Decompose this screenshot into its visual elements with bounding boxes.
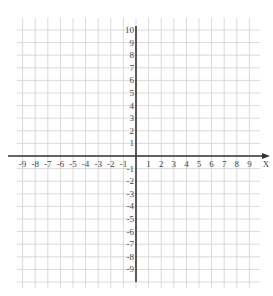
x-tick-label: 4 xyxy=(184,159,189,169)
x-tick-label: -5 xyxy=(69,159,77,169)
y-tick-label: -9 xyxy=(127,264,135,274)
coordinate-plane: -9-8-7-6-5-4-3-2-1123456789X10987654321-… xyxy=(0,0,273,296)
y-tick-label: 10 xyxy=(125,25,135,35)
y-tick-label: 7 xyxy=(130,63,135,73)
x-axis-label: X xyxy=(263,159,270,169)
x-tick-label: 3 xyxy=(172,159,177,169)
x-tick-label: -9 xyxy=(19,159,27,169)
y-tick-label: 2 xyxy=(130,126,135,136)
x-tick-label: 7 xyxy=(222,159,227,169)
axis-labels: -9-8-7-6-5-4-3-2-1123456789X10987654321-… xyxy=(19,25,270,274)
axes xyxy=(8,26,270,282)
x-tick-label: 8 xyxy=(235,159,240,169)
x-tick-label: -6 xyxy=(57,159,65,169)
y-tick-label: -7 xyxy=(127,239,135,249)
x-tick-label: -8 xyxy=(31,159,39,169)
x-tick-label: 2 xyxy=(159,159,164,169)
x-tick-label: -4 xyxy=(82,159,90,169)
y-tick-label: 8 xyxy=(130,50,135,60)
x-tick-label: 1 xyxy=(146,159,151,169)
x-tick-label: -3 xyxy=(94,159,102,169)
x-tick-label: -7 xyxy=(44,159,52,169)
y-tick-label: -8 xyxy=(127,252,135,262)
y-tick-label: 1 xyxy=(130,138,135,148)
y-tick-label: -5 xyxy=(127,214,135,224)
grid-lines xyxy=(17,18,260,288)
y-tick-label: 6 xyxy=(130,75,135,85)
y-tick-label: 5 xyxy=(130,88,135,98)
x-tick-label: 9 xyxy=(247,159,252,169)
x-tick-label: -2 xyxy=(107,159,115,169)
y-tick-label: -3 xyxy=(127,189,135,199)
x-tick-label: 6 xyxy=(209,159,214,169)
y-tick-label: 4 xyxy=(130,101,135,111)
y-tick-label: -1 xyxy=(127,164,135,174)
y-tick-label: -2 xyxy=(127,176,135,186)
y-tick-label: -4 xyxy=(127,201,135,211)
y-tick-label: 3 xyxy=(130,113,135,123)
y-tick-label: 9 xyxy=(130,38,135,48)
x-tick-label: 5 xyxy=(197,159,202,169)
y-tick-label: -6 xyxy=(127,227,135,237)
